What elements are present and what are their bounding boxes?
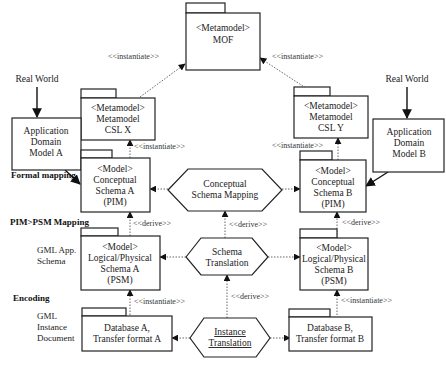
mda-diagram: <<instantiate>> <<instantiate>> <<instan…: [0, 0, 446, 367]
process-schema-translation: Schema Translation: [186, 238, 268, 275]
conceptual-b-line-1: Conceptual: [311, 177, 355, 187]
mof-stereotype: <Metamodel>: [196, 23, 250, 33]
it-line-2: Translation: [209, 338, 252, 348]
conceptual-a-stereotype: <Model>: [97, 164, 133, 174]
side-label-gml-instance-2: Instance: [37, 322, 67, 332]
side-label-gml-app-1: GML App.: [37, 245, 76, 255]
instantiate-label-csly-mof: <<instantiate>>: [272, 52, 323, 61]
package-csl-x: <Metamodel> Metamodel CSL X: [81, 89, 155, 140]
st-line-1: Schema: [212, 247, 243, 257]
domain-a-line-1: Application: [24, 126, 69, 136]
domain-b-line-2: Domain: [394, 138, 425, 148]
csl-y-stereotype: <Metamodel>: [304, 101, 358, 111]
csl-x-line-1: Metamodel: [96, 114, 140, 124]
package-conceptual-b: <Model> Conceptual Schema B (PIM): [300, 151, 366, 212]
conceptual-b-line-3: (PIM): [321, 199, 344, 210]
domain-model-a: Application Domain Model A: [12, 118, 81, 170]
conceptual-a-line-1: Conceptual: [93, 175, 137, 185]
process-instance-translation: Instance Translation: [190, 318, 270, 357]
side-label-pim-psm: PIM>PSM Mapping: [10, 217, 89, 227]
csl-x-stereotype: <Metamodel>: [91, 103, 145, 113]
conceptual-b-stereotype: <Model>: [315, 166, 351, 176]
database-b-line-2: Transfer format B: [296, 334, 364, 344]
side-label-gml-instance-3: Document: [37, 333, 75, 343]
logical-a-line-3: (PSM): [107, 275, 132, 286]
domain-b-line-1: Application: [387, 127, 432, 137]
database-a-line-2: Transfer format A: [93, 334, 161, 344]
it-line-1: Instance: [214, 327, 246, 337]
instantiate-label-db-b: <<instantiate>>: [341, 296, 392, 305]
package-logical-b: <Model> Logical/Physical Schema B (PSM): [300, 229, 368, 290]
instantiate-arrow-cslx-mof: [140, 64, 185, 97]
logical-b-stereotype: <Model>: [316, 243, 352, 253]
derive-label-logical-a: <<derive>>: [133, 219, 172, 228]
package-mof: <Metamodel> MOF: [186, 3, 260, 70]
conceptual-a-line-3: (PIM): [103, 197, 126, 208]
instantiate-label-db-a: <<instantiate>>: [134, 297, 185, 306]
domain-b-to-conceptual-b-arrow: [366, 172, 388, 186]
database-a-line-1: Database A,: [104, 323, 150, 333]
database-b-line-1: Database B,: [307, 323, 353, 333]
csm-line-1: Conceptual: [203, 179, 247, 189]
instantiate-label-conceptual-b: <<instantiate>>: [272, 141, 323, 150]
instantiate-label-conceptual-a: <<instantiate>>: [134, 142, 185, 151]
package-database-a: Database A, Transfer format A: [82, 308, 172, 351]
csm-line-2: Schema Mapping: [192, 190, 259, 200]
real-world-a-label: Real World: [15, 74, 58, 84]
logical-b-line-3: (PSM): [321, 276, 346, 287]
side-label-gml-app-2: Schema: [37, 256, 66, 266]
package-database-b: Database B, Transfer format B: [289, 309, 372, 351]
mof-name: MOF: [213, 35, 234, 45]
side-label-formal-mapping: Formal mapping: [11, 170, 76, 180]
package-conceptual-a: <Model> Conceptual Schema A (PIM): [81, 150, 150, 212]
package-csl-y: <Metamodel> Metamodel CSL Y: [294, 87, 368, 138]
derive-label-logical-b: <<derive>>: [342, 218, 381, 227]
csl-y-line-2: CSL Y: [318, 123, 344, 133]
logical-a-line-2: Schema A: [101, 264, 140, 274]
logical-b-line-2: Schema B: [315, 265, 354, 275]
side-label-gml-instance-1: GML: [37, 311, 57, 321]
conceptual-b-line-2: Schema B: [314, 188, 353, 198]
logical-a-stereotype: <Model>: [102, 242, 138, 252]
derive-label-schema-translation: <<derive>>: [229, 220, 268, 229]
logical-a-line-1: Logical/Physical: [88, 253, 152, 263]
domain-a-line-2: Domain: [31, 137, 62, 147]
domain-b-line-3: Model B: [392, 149, 426, 159]
real-world-b-label: Real World: [385, 74, 428, 84]
side-label-encoding: Encoding: [13, 293, 50, 303]
logical-b-line-1: Logical/Physical: [302, 254, 366, 264]
process-conceptual-schema-mapping: Conceptual Schema Mapping: [168, 169, 282, 211]
domain-a-line-3: Model A: [29, 148, 63, 158]
csl-y-line-1: Metamodel: [309, 112, 353, 122]
instantiate-label-cslx-mof: <<instantiate>>: [108, 52, 159, 61]
derive-label-instance-translation: <<derive>>: [231, 292, 270, 301]
st-line-2: Translation: [206, 258, 249, 268]
domain-model-b: Application Domain Model B: [373, 119, 444, 172]
package-logical-a: <Model> Logical/Physical Schema A (PSM): [81, 228, 160, 290]
csl-x-line-2: CSL X: [105, 125, 131, 135]
conceptual-a-line-2: Schema A: [96, 186, 135, 196]
